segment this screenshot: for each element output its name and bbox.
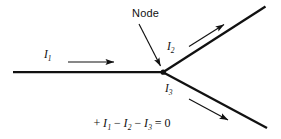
equation-op-3: − (132, 116, 144, 130)
current-label-i1: I1 (44, 49, 52, 63)
branch-line-i3 (163, 72, 267, 128)
current-label-i2: I2 (167, 41, 175, 55)
kcl-equation: +I1−I2−I3=0 (91, 117, 171, 132)
kirchhoff-node-figure: Node I1 I2 I3 +I1−I2−I3=0 (0, 0, 281, 139)
current-label-i3: I3 (165, 83, 173, 97)
current-subscript-i2: 2 (171, 46, 175, 55)
branch-line-i2 (163, 7, 266, 73)
current-subscript-i1: 1 (48, 54, 52, 63)
node-leader-arrow (139, 24, 161, 66)
equation-result: 0 (164, 116, 170, 130)
node-junction-dot (161, 70, 166, 75)
current-arrow-i3 (189, 99, 228, 120)
node-caption-label: Node (132, 8, 159, 19)
equation-relation: = (152, 116, 164, 130)
equation-op-1: + (91, 116, 103, 130)
current-subscript-i3: 3 (169, 88, 173, 97)
equation-op-2: − (111, 116, 123, 130)
